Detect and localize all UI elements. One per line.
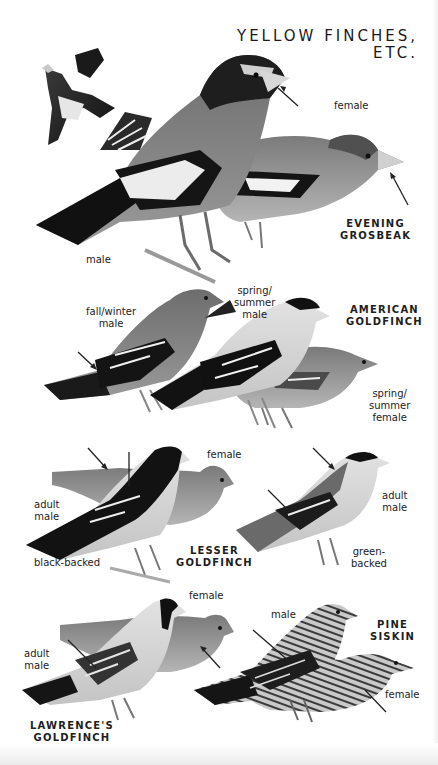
species-name-evening-grosbeak: EVENING GROSBEAK [340,218,411,242]
page-edge-shadow-bottom [0,743,438,765]
species-name-lesser-goldfinch: LESSER GOLDFINCH [176,545,253,569]
label-evening-grosbeak-female: female [334,100,368,112]
page-title: YELLOW FINCHES, ETC. [237,28,418,62]
evening-grosbeak-flying-male [42,48,115,145]
species-name-pine-siskin: PINE SISKIN [370,619,415,643]
label-american-goldfinch-fall-winter-male: fall/winter male [86,306,136,330]
field-guide-page: YELLOW FINCHES, ETC. female EVENING GROS… [0,0,438,765]
label-lawrences-goldfinch-female: female [189,590,223,602]
label-lesser-goldfinch-green-backed: green- backed [351,546,387,570]
label-lawrences-goldfinch-adult-male: adult male [24,648,50,672]
label-american-goldfinch-spring-summer-male: spring/ summer male [234,285,275,321]
species-name-lawrences-goldfinch: LAWRENCE'S GOLDFINCH [30,720,114,744]
page-edge-shadow-right [432,0,438,765]
page-title-line1: YELLOW FINCHES, [237,28,418,45]
label-american-goldfinch-spring-summer-female: spring/ summer female [369,388,410,424]
pointer-line [278,88,298,106]
label-pine-siskin-male: male [271,609,296,621]
label-pine-siskin-female: female [385,689,419,701]
label-lesser-goldfinch-adult-male-right: adult male [382,490,408,514]
species-name-american-goldfinch: AMERICAN GOLDFINCH [346,304,423,328]
bird-illustrations [0,0,438,765]
label-lesser-goldfinch-adult-male: adult male [34,499,60,523]
label-evening-grosbeak-male: male [86,254,111,266]
page-title-line2: ETC. [237,45,418,62]
label-lesser-goldfinch-black-backed: black-backed [34,557,100,569]
label-lesser-goldfinch-female: female [207,449,241,461]
